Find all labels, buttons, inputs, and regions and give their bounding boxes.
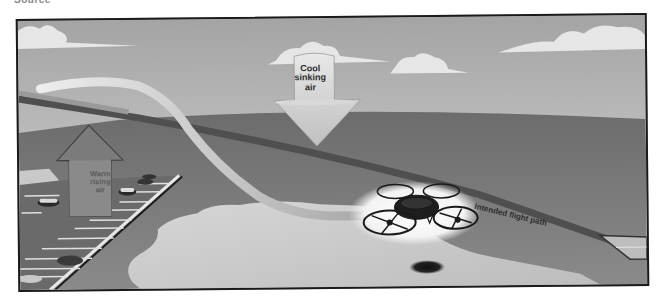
- warm-label-line3: air: [74, 186, 126, 194]
- cool-label-line3: air: [285, 83, 335, 93]
- figure-caption-fragment: Source: [14, 0, 51, 5]
- warm-rising-air-label: Warm rising air: [74, 170, 126, 194]
- cool-sinking-air-label: Cool sinking air: [285, 64, 335, 93]
- diagram-frame: Cool sinking air Warm rising air Intende…: [16, 13, 650, 292]
- scene-illustration: [18, 15, 648, 290]
